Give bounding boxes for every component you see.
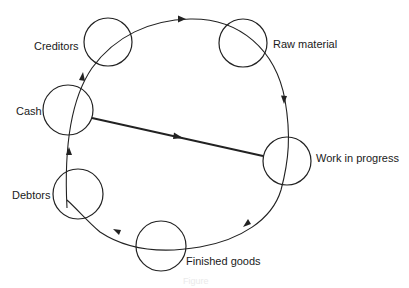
label-raw-material: Raw material: [273, 38, 337, 50]
label-creditors: Creditors: [34, 40, 79, 52]
cash-to-wip-arrow: [173, 133, 183, 140]
figure-caption: Figure: [183, 276, 209, 286]
label-cash: Cash: [16, 105, 42, 117]
node-creditors: [84, 18, 132, 66]
cycle-arrow-bottom-right: [243, 219, 251, 227]
node-cash: [43, 85, 93, 135]
label-debtors: Debtors: [12, 189, 51, 201]
node-raw-material: [219, 19, 267, 67]
node-finished-goods: [136, 221, 186, 271]
cycle-arrow-bottom-left: [113, 229, 121, 235]
cycle-arrow-left-upper: [79, 72, 85, 81]
label-work-in-progress: Work in progress: [316, 152, 399, 164]
label-finished-goods: Finished goods: [186, 255, 261, 267]
cycle-arrow-top: [178, 16, 186, 23]
working-capital-cycle-diagram: Creditors Raw material Work in progress …: [0, 0, 409, 288]
cycle-arrow-right: [281, 96, 287, 105]
